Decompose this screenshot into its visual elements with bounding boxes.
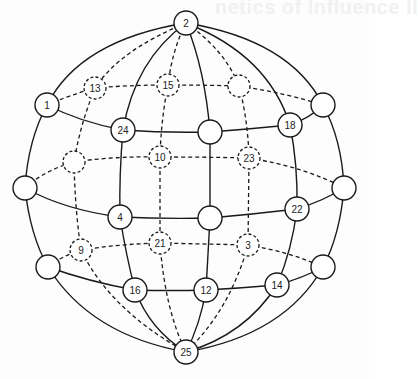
node-23: 23	[238, 147, 260, 169]
nodes: 2 25 1 13 15 24 18 10 23 4 22 9 21 3 16 …	[13, 11, 356, 364]
edge-dl-9	[74, 162, 81, 250]
node-22: 22	[285, 197, 309, 221]
node-14: 14	[265, 273, 289, 297]
edge-2-str	[186, 23, 323, 105]
node-unlabeled-front-center-top	[198, 120, 222, 144]
node-12: 12	[194, 278, 218, 302]
edge-1-slm	[25, 105, 47, 188]
node-unlabeled-front-top-right	[311, 93, 335, 117]
svg-text:15: 15	[162, 80, 174, 91]
edge-24-sct	[123, 130, 210, 132]
node-15: 15	[157, 74, 179, 96]
node-unlabeled-back-left	[63, 151, 85, 173]
node-21: 21	[149, 232, 171, 254]
svg-text:10: 10	[154, 152, 166, 163]
edge-10-23	[160, 157, 249, 158]
svg-text:1: 1	[44, 100, 50, 111]
edge-2-24	[123, 23, 186, 130]
svg-text:9: 9	[78, 245, 84, 256]
edge-23-3	[248, 158, 249, 245]
svg-text:13: 13	[89, 83, 101, 94]
svg-text:22: 22	[291, 204, 303, 215]
node-16: 16	[123, 278, 147, 302]
edge-4-sc	[120, 217, 210, 218]
node-9: 9	[70, 239, 92, 261]
edge-slm-4	[25, 188, 120, 217]
edge-sll-16	[48, 267, 135, 290]
node-3: 3	[237, 234, 259, 256]
svg-text:21: 21	[154, 238, 166, 249]
svg-text:3: 3	[245, 240, 251, 251]
edge-3-25	[186, 245, 248, 352]
svg-text:4: 4	[117, 212, 123, 223]
edge-21-3	[160, 243, 248, 245]
svg-text:25: 25	[180, 347, 192, 358]
node-4: 4	[108, 205, 132, 229]
node-unlabeled-front-center	[198, 206, 222, 230]
edge-sll-25	[48, 267, 186, 352]
node-13: 13	[84, 77, 106, 99]
node-18: 18	[278, 113, 302, 137]
edge-24-4	[120, 130, 123, 217]
svg-text:23: 23	[243, 153, 255, 164]
svg-text:24: 24	[117, 125, 129, 136]
node-unlabeled-front-left-mid	[13, 176, 37, 200]
node-2: 2	[174, 11, 198, 35]
svg-text:2: 2	[183, 18, 189, 29]
node-unlabeled-front-left-lower	[36, 255, 60, 279]
svg-text:12: 12	[200, 285, 212, 296]
edge-sc-22	[210, 209, 297, 218]
front-edges	[25, 23, 344, 352]
node-10: 10	[149, 146, 171, 168]
edge-str-srm	[323, 105, 344, 188]
node-1: 1	[35, 93, 59, 117]
svg-text:14: 14	[271, 280, 283, 291]
node-unlabeled-front-right-lower	[311, 255, 335, 279]
edge-9-21	[81, 243, 160, 250]
node-25: 25	[174, 340, 198, 364]
edge-2-sct	[186, 23, 210, 132]
svg-text:16: 16	[129, 285, 141, 296]
svg-text:18: 18	[284, 120, 296, 131]
edge-dl-10	[74, 157, 160, 162]
node-unlabeled-back-top-right	[228, 75, 250, 97]
node-24: 24	[111, 118, 135, 142]
node-unlabeled-front-right-mid	[332, 176, 356, 200]
